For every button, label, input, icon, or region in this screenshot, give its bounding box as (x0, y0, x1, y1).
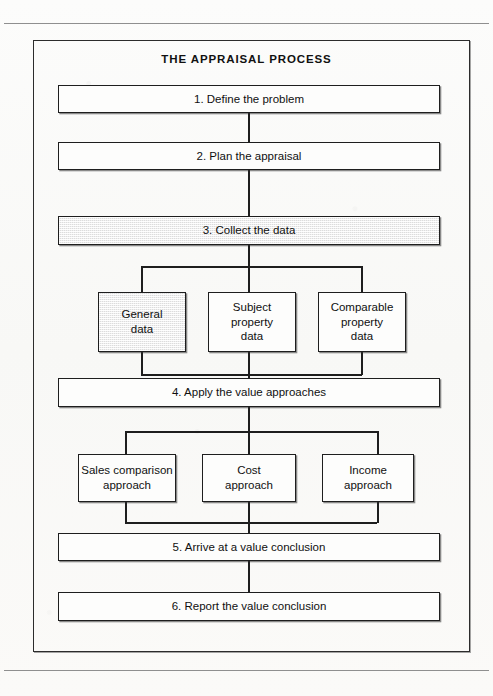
connector-step3-down (248, 245, 250, 267)
step-box-label: 3. Collect the data (203, 223, 296, 238)
connector-approach-bracket-bottom (125, 522, 377, 524)
step-box-apply-the-value-approaches[interactable]: 4. Apply the value approaches (58, 378, 440, 407)
step-box-label: 2. Plan the appraisal (197, 149, 302, 164)
connector-approach-bracket-top (125, 431, 377, 433)
connector-approach-left-up (125, 502, 127, 523)
step-box-collect-the-data[interactable]: 3. Collect the data (58, 216, 440, 245)
approach-box-line1: Cost (237, 463, 261, 478)
approach-box-line2: approach (344, 478, 392, 493)
data-box-line3: data (351, 329, 373, 344)
step-box-report-the-value-conclusion[interactable]: 6. Report the value conclusion (58, 592, 440, 621)
approach-box-income[interactable]: Income approach (322, 454, 414, 502)
connector-approach-center-up (248, 502, 250, 533)
connector-approach-right-up (377, 502, 379, 523)
appraisal-process-figure: THE APPRAISAL PROCESS 1. Define the prob… (0, 0, 493, 696)
step-box-label: 1. Define the problem (194, 92, 304, 107)
data-box-line1: Subject (233, 300, 271, 315)
step-box-plan-the-appraisal[interactable]: 2. Plan the appraisal (58, 142, 440, 170)
approach-box-cost[interactable]: Cost approach (202, 454, 296, 502)
data-box-line2: property (231, 315, 273, 330)
approach-box-line2: approach (103, 478, 151, 493)
approach-box-line1: Income (349, 463, 387, 478)
data-box-line2: data (131, 322, 153, 337)
step-box-arrive-at-a-value-conclusion[interactable]: 5. Arrive at a value conclusion (58, 533, 440, 561)
connector-approach-left-down (125, 431, 127, 454)
data-box-line3: data (241, 329, 263, 344)
step-box-label: 4. Apply the value approaches (172, 385, 326, 400)
step-box-define-the-problem[interactable]: 1. Define the problem (58, 85, 440, 113)
connector-step5-step6 (248, 561, 250, 592)
page-rule-top (4, 23, 489, 24)
step-box-label: 5. Arrive at a value conclusion (173, 540, 326, 555)
approach-box-sales-comparison[interactable]: Sales comparison approach (78, 454, 176, 502)
data-box-line1: Comparable (331, 300, 394, 315)
connector-step1-step2 (248, 113, 250, 142)
connector-data-bracket-top (141, 266, 362, 268)
connector-data-left-up (141, 352, 143, 375)
approach-box-line1: Sales comparison (81, 463, 172, 478)
data-box-line2: property (341, 315, 383, 330)
connector-step4-down (248, 407, 250, 432)
step-box-label: 6. Report the value conclusion (172, 599, 327, 614)
figure-title: THE APPRAISAL PROCESS (0, 53, 493, 65)
connector-data-center-down (248, 266, 250, 292)
connector-step2-step3 (248, 170, 250, 216)
connector-approach-center-down (248, 431, 250, 454)
connector-data-right-up (361, 352, 363, 375)
connector-approach-right-down (377, 431, 379, 454)
approach-box-line2: approach (225, 478, 273, 493)
data-box-subject-property-data[interactable]: Subject property data (208, 292, 296, 352)
connector-data-bracket-bottom (141, 374, 362, 376)
connector-data-left-down (141, 266, 143, 292)
page-rule-bottom (4, 670, 489, 671)
data-box-comparable-property-data[interactable]: Comparable property data (318, 292, 406, 352)
connector-data-right-down (361, 266, 363, 292)
data-box-line1: General (122, 307, 163, 322)
data-box-general-data[interactable]: General data (98, 292, 186, 352)
